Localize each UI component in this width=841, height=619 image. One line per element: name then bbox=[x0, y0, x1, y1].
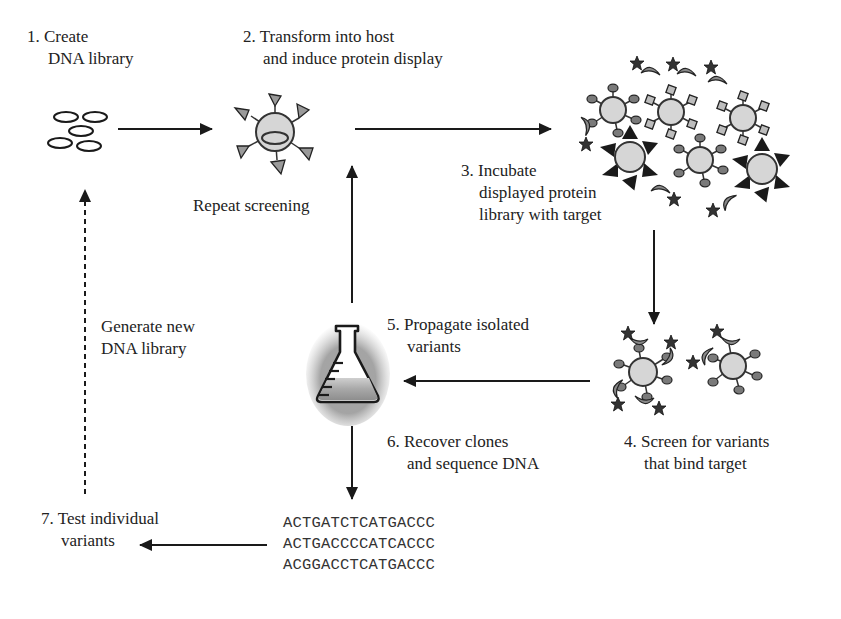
bound-cells-icon bbox=[611, 324, 762, 415]
step-7-number: 7. bbox=[41, 509, 54, 528]
erlenmeyer-flask-icon bbox=[306, 322, 390, 426]
step-4-label: 4. Screen for variants that bind target bbox=[624, 431, 769, 475]
step-5-line1: Propagate isolated bbox=[404, 315, 529, 334]
step-2-number: 2. bbox=[243, 27, 256, 46]
step-1-number: 1. bbox=[27, 27, 40, 46]
step-1-line1: Create bbox=[44, 27, 88, 46]
step-4-line1: Screen for variants bbox=[641, 432, 769, 451]
sequence-1: ACTGATCTCATGACCC bbox=[283, 513, 435, 534]
generate-line2: DNA library bbox=[101, 338, 195, 360]
step-1-label: 1. Create DNA library bbox=[27, 26, 133, 70]
cell-population-with-targets-icon bbox=[579, 56, 790, 217]
step-5-number: 5. bbox=[387, 315, 400, 334]
step-2-line2: and induce protein display bbox=[243, 48, 443, 70]
sequence-3: ACGGACCTCATGACCC bbox=[283, 555, 435, 576]
displaying-cell-icon bbox=[235, 94, 313, 174]
step-3-line2: displayed protein bbox=[461, 182, 601, 204]
step-6-label: 6. Recover clones and sequence DNA bbox=[387, 431, 539, 475]
step-6-number: 6. bbox=[387, 432, 400, 451]
step-6-line2: and sequence DNA bbox=[387, 453, 539, 475]
step-3-number: 3. bbox=[461, 161, 474, 180]
step-7-label: 7. Test individual variants bbox=[41, 508, 159, 552]
generate-line1: Generate new bbox=[101, 316, 195, 338]
dna-sequences: ACTGATCTCATGACCC ACTGACCCCATCACCC ACGGAC… bbox=[283, 513, 435, 576]
repeat-screening-label: Repeat screening bbox=[193, 195, 310, 217]
step-5-label: 5. Propagate isolated variants bbox=[387, 314, 529, 358]
step-4-number: 4. bbox=[624, 432, 637, 451]
generate-new-library-label: Generate new DNA library bbox=[101, 316, 195, 360]
step-5-line2: variants bbox=[387, 336, 529, 358]
step-2-line1: Transform into host bbox=[260, 27, 394, 46]
plasmid-ovals-icon bbox=[48, 112, 107, 151]
step-3-line3: library with target bbox=[461, 204, 601, 226]
step-3-label: 3. Incubate displayed protein library wi… bbox=[461, 160, 601, 226]
step-3-line1: Incubate bbox=[478, 161, 537, 180]
sequence-2: ACTGACCCCATCACCC bbox=[283, 534, 435, 555]
step-1-line2: DNA library bbox=[27, 48, 133, 70]
step-4-line2: that bind target bbox=[624, 453, 769, 475]
step-2-label: 2. Transform into host and induce protei… bbox=[243, 26, 443, 70]
step-7-line2: variants bbox=[41, 530, 159, 552]
step-7-line1: Test individual bbox=[58, 509, 159, 528]
step-6-line1: Recover clones bbox=[404, 432, 508, 451]
